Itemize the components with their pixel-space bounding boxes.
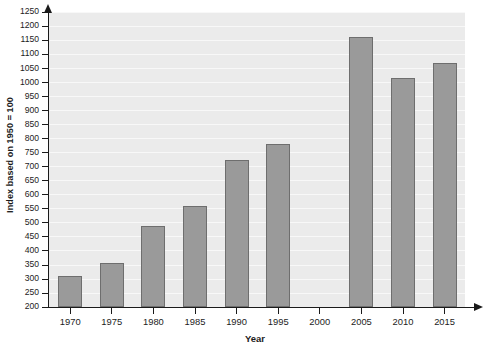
x-axis-tick [153, 308, 154, 314]
y-axis-tick [42, 68, 49, 69]
y-axis-tick-label: 600 [9, 190, 39, 199]
y-axis-tick [42, 26, 49, 27]
y-axis-tick-label: 500 [9, 218, 39, 227]
x-axis-tick-label: 1990 [215, 316, 259, 327]
y-axis-tick-label: 1000 [9, 78, 39, 87]
gridline [49, 12, 465, 13]
x-axis-tick [278, 308, 279, 314]
y-axis-tick-label: 700 [9, 162, 39, 171]
x-axis-tick [70, 308, 71, 314]
bar [433, 63, 457, 307]
x-axis-tick [111, 308, 112, 314]
gridline [49, 54, 465, 55]
y-axis-tick-label: 250 [9, 288, 39, 297]
y-axis-tick [42, 194, 49, 195]
bar-chart: Index based on 1950 = 100 20025030035040… [0, 0, 494, 356]
x-axis-tick-label: 2010 [381, 316, 425, 327]
y-axis-tick [42, 138, 49, 139]
y-axis-tick-label: 900 [9, 106, 39, 115]
y-axis-tick [42, 124, 49, 125]
y-axis-tick-label: 300 [9, 274, 39, 283]
x-axis-tick-label: 1995 [256, 316, 300, 327]
y-axis-tick [42, 250, 49, 251]
x-axis-tick-label: 1980 [131, 316, 175, 327]
y-axis-tick [42, 12, 49, 13]
x-axis-tick-label: 1985 [173, 316, 217, 327]
y-axis-tick-label: 1250 [9, 7, 39, 16]
gridline [49, 26, 465, 27]
y-axis-tick-label: 800 [9, 134, 39, 143]
y-axis-tick-label: 950 [9, 92, 39, 101]
y-axis-tick [42, 222, 49, 223]
gridline [49, 40, 465, 41]
bar [349, 37, 373, 306]
x-axis-tick-label: 2015 [423, 316, 467, 327]
y-axis-tick-label: 350 [9, 260, 39, 269]
x-axis-title: Year [45, 333, 465, 344]
x-axis-tick [319, 308, 320, 314]
y-axis-tick [42, 54, 49, 55]
y-axis-tick [42, 152, 49, 153]
y-axis-tick-label: 650 [9, 176, 39, 185]
y-axis-tick-label: 550 [9, 204, 39, 213]
y-axis-tick-label: 1200 [9, 21, 39, 30]
y-axis-tick [42, 96, 49, 97]
x-axis-tick [236, 308, 237, 314]
y-axis-tick [42, 180, 49, 181]
y-axis-tick-label: 400 [9, 246, 39, 255]
gridline [49, 68, 465, 69]
y-axis-tick-label: 1050 [9, 64, 39, 73]
bar [100, 263, 124, 306]
x-axis-tick-label: 1975 [90, 316, 134, 327]
bar [266, 144, 290, 306]
y-axis-tick [42, 82, 49, 83]
y-axis-tick-label: 450 [9, 232, 39, 241]
x-axis-tick [403, 308, 404, 314]
x-axis-tick [195, 308, 196, 314]
bar [225, 160, 249, 306]
y-axis-tick-label: 750 [9, 148, 39, 157]
bar [183, 206, 207, 306]
y-axis-tick [42, 279, 49, 280]
y-axis-tick-label: 1100 [9, 49, 39, 58]
x-axis-tick-label: 2005 [339, 316, 383, 327]
y-axis-tick [42, 236, 49, 237]
y-axis-tick [42, 208, 49, 209]
bar [391, 78, 415, 307]
y-axis-tick [42, 40, 49, 41]
y-axis-tick [42, 265, 49, 266]
y-axis-tick-label: 850 [9, 120, 39, 129]
x-axis-tick-label: 2000 [298, 316, 342, 327]
x-axis-tick [444, 308, 445, 314]
y-axis-tick [42, 307, 49, 308]
bar [58, 276, 82, 307]
bar [141, 226, 165, 307]
y-axis-tick-label: 200 [9, 302, 39, 311]
y-axis-tick-label: 1150 [9, 35, 39, 44]
x-axis-arrow-icon [474, 303, 483, 311]
x-axis-tick [361, 308, 362, 314]
x-axis-tick-label: 1970 [48, 316, 92, 327]
y-axis-tick [42, 166, 49, 167]
y-axis-tick [42, 293, 49, 294]
y-axis-tick [42, 110, 49, 111]
